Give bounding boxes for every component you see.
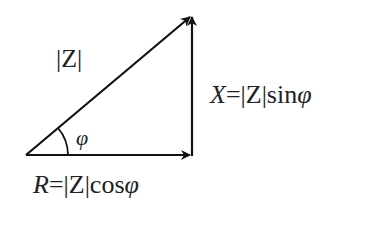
phi-symbol: φ <box>297 80 311 109</box>
reactance-label: X=|Z|sinφ <box>210 82 312 108</box>
phi-symbol: φ <box>125 170 139 199</box>
angle-arc <box>58 128 68 155</box>
resistance-symbol: R <box>33 170 49 199</box>
reactance-formula: =|Z|sin <box>226 80 297 109</box>
angle-label: φ <box>76 127 88 149</box>
resistance-label: R=|Z|cosφ <box>33 172 139 198</box>
hypotenuse-label: |Z| <box>56 46 82 72</box>
reactance-symbol: X <box>210 80 226 109</box>
resistance-formula: =|Z|cos <box>49 170 125 199</box>
impedance-vector <box>26 17 190 155</box>
